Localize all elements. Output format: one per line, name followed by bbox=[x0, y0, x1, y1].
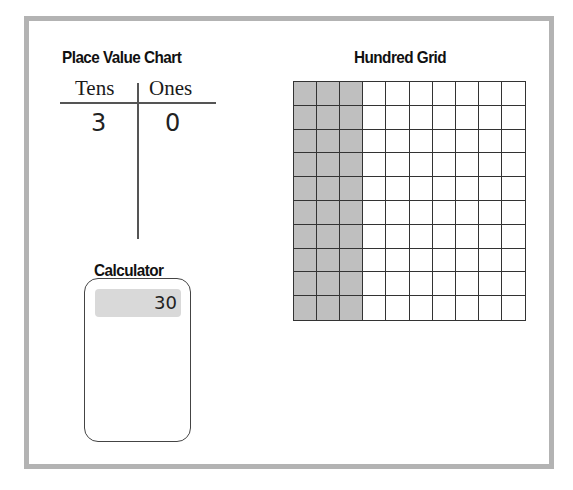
grid-cell[interactable] bbox=[386, 296, 409, 320]
grid-cell[interactable] bbox=[456, 249, 479, 273]
grid-cell[interactable] bbox=[410, 106, 433, 130]
grid-cell[interactable] bbox=[502, 177, 525, 201]
grid-cell[interactable] bbox=[433, 82, 456, 106]
grid-cell-shaded[interactable] bbox=[340, 201, 363, 225]
grid-cell[interactable] bbox=[433, 249, 456, 273]
grid-cell[interactable] bbox=[363, 130, 386, 154]
grid-cell[interactable] bbox=[410, 249, 433, 273]
grid-cell-shaded[interactable] bbox=[340, 177, 363, 201]
grid-cell[interactable] bbox=[456, 201, 479, 225]
grid-cell[interactable] bbox=[386, 272, 409, 296]
grid-cell[interactable] bbox=[502, 249, 525, 273]
grid-cell[interactable] bbox=[363, 296, 386, 320]
grid-cell-shaded[interactable] bbox=[317, 225, 340, 249]
grid-cell[interactable] bbox=[386, 249, 409, 273]
grid-cell[interactable] bbox=[386, 106, 409, 130]
grid-cell[interactable] bbox=[433, 153, 456, 177]
grid-cell-shaded[interactable] bbox=[294, 82, 317, 106]
grid-cell[interactable] bbox=[456, 153, 479, 177]
grid-cell[interactable] bbox=[456, 130, 479, 154]
grid-cell[interactable] bbox=[363, 249, 386, 273]
grid-cell-shaded[interactable] bbox=[317, 106, 340, 130]
grid-cell[interactable] bbox=[502, 272, 525, 296]
grid-cell[interactable] bbox=[456, 106, 479, 130]
grid-cell[interactable] bbox=[456, 225, 479, 249]
grid-cell[interactable] bbox=[386, 82, 409, 106]
grid-cell[interactable] bbox=[479, 106, 502, 130]
grid-cell[interactable] bbox=[410, 225, 433, 249]
grid-cell[interactable] bbox=[410, 82, 433, 106]
grid-cell[interactable] bbox=[456, 82, 479, 106]
grid-cell-shaded[interactable] bbox=[317, 296, 340, 320]
grid-cell[interactable] bbox=[386, 177, 409, 201]
grid-cell[interactable] bbox=[502, 130, 525, 154]
grid-cell[interactable] bbox=[502, 106, 525, 130]
grid-cell-shaded[interactable] bbox=[317, 272, 340, 296]
grid-cell[interactable] bbox=[479, 153, 502, 177]
grid-cell[interactable] bbox=[433, 130, 456, 154]
grid-cell-shaded[interactable] bbox=[294, 177, 317, 201]
grid-cell[interactable] bbox=[479, 249, 502, 273]
grid-cell[interactable] bbox=[456, 177, 479, 201]
grid-cell[interactable] bbox=[410, 153, 433, 177]
grid-cell[interactable] bbox=[410, 130, 433, 154]
grid-cell[interactable] bbox=[363, 106, 386, 130]
grid-cell[interactable] bbox=[363, 225, 386, 249]
grid-cell-shaded[interactable] bbox=[340, 106, 363, 130]
grid-cell-shaded[interactable] bbox=[294, 225, 317, 249]
grid-cell-shaded[interactable] bbox=[294, 201, 317, 225]
grid-cell[interactable] bbox=[479, 272, 502, 296]
grid-cell-shaded[interactable] bbox=[294, 153, 317, 177]
grid-cell[interactable] bbox=[433, 177, 456, 201]
grid-cell-shaded[interactable] bbox=[294, 272, 317, 296]
grid-cell[interactable] bbox=[363, 177, 386, 201]
grid-cell[interactable] bbox=[433, 201, 456, 225]
grid-cell-shaded[interactable] bbox=[340, 249, 363, 273]
grid-cell-shaded[interactable] bbox=[340, 82, 363, 106]
grid-cell-shaded[interactable] bbox=[294, 249, 317, 273]
grid-cell[interactable] bbox=[386, 225, 409, 249]
grid-cell[interactable] bbox=[502, 201, 525, 225]
grid-cell[interactable] bbox=[386, 153, 409, 177]
grid-cell[interactable] bbox=[386, 130, 409, 154]
grid-cell[interactable] bbox=[479, 177, 502, 201]
grid-cell[interactable] bbox=[433, 296, 456, 320]
grid-cell-shaded[interactable] bbox=[317, 82, 340, 106]
grid-cell[interactable] bbox=[479, 130, 502, 154]
grid-cell-shaded[interactable] bbox=[294, 130, 317, 154]
hundred-grid[interactable] bbox=[293, 81, 526, 321]
grid-cell-shaded[interactable] bbox=[340, 130, 363, 154]
grid-cell[interactable] bbox=[410, 296, 433, 320]
grid-cell-shaded[interactable] bbox=[340, 296, 363, 320]
grid-cell[interactable] bbox=[433, 225, 456, 249]
grid-cell[interactable] bbox=[456, 272, 479, 296]
grid-cell[interactable] bbox=[502, 82, 525, 106]
grid-cell[interactable] bbox=[479, 296, 502, 320]
grid-cell[interactable] bbox=[502, 225, 525, 249]
grid-cell[interactable] bbox=[456, 296, 479, 320]
grid-cell[interactable] bbox=[363, 201, 386, 225]
grid-cell[interactable] bbox=[410, 177, 433, 201]
grid-cell[interactable] bbox=[410, 272, 433, 296]
grid-cell-shaded[interactable] bbox=[340, 153, 363, 177]
grid-cell[interactable] bbox=[363, 272, 386, 296]
grid-cell-shaded[interactable] bbox=[317, 130, 340, 154]
grid-cell-shaded[interactable] bbox=[340, 272, 363, 296]
grid-cell[interactable] bbox=[433, 272, 456, 296]
grid-cell[interactable] bbox=[479, 201, 502, 225]
calculator[interactable]: 30 bbox=[84, 278, 191, 442]
grid-cell[interactable] bbox=[410, 201, 433, 225]
grid-cell[interactable] bbox=[433, 106, 456, 130]
grid-cell-shaded[interactable] bbox=[317, 249, 340, 273]
grid-cell[interactable] bbox=[479, 225, 502, 249]
grid-cell-shaded[interactable] bbox=[317, 177, 340, 201]
grid-cell[interactable] bbox=[363, 82, 386, 106]
grid-cell[interactable] bbox=[502, 296, 525, 320]
grid-cell-shaded[interactable] bbox=[340, 225, 363, 249]
grid-cell[interactable] bbox=[502, 153, 525, 177]
grid-cell[interactable] bbox=[363, 153, 386, 177]
grid-cell[interactable] bbox=[479, 82, 502, 106]
grid-cell[interactable] bbox=[386, 201, 409, 225]
grid-cell-shaded[interactable] bbox=[294, 296, 317, 320]
grid-cell-shaded[interactable] bbox=[294, 106, 317, 130]
